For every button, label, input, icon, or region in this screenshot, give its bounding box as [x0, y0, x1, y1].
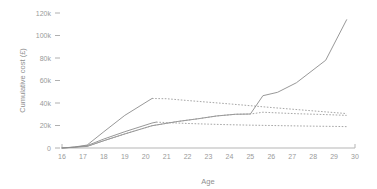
- y-tick-label: 0: [47, 145, 51, 152]
- x-axis-title: Age: [201, 177, 214, 186]
- series-central-estimate-projected: [156, 122, 346, 127]
- x-tick-label: 20: [142, 153, 150, 160]
- y-tick-label: 120k: [36, 10, 52, 17]
- x-tick-label: 18: [100, 153, 108, 160]
- x-tick-label: 21: [163, 153, 171, 160]
- x-tick-label: 29: [330, 153, 338, 160]
- x-tick-label: 28: [309, 153, 317, 160]
- series-upper-estimate-observed: [62, 99, 152, 149]
- x-tick-label: 25: [246, 153, 254, 160]
- x-axis-ticks: 161718192021222324252627282930: [58, 153, 359, 160]
- x-tick-label: 26: [267, 153, 275, 160]
- x-tick-label: 19: [121, 153, 129, 160]
- y-axis-ticks: 020k40k60k80k100k120k: [36, 10, 60, 152]
- series-lower-band-projected: [87, 112, 347, 146]
- y-tick-label: 100k: [36, 32, 52, 39]
- series-cumulative-cost-main: [62, 20, 347, 148]
- y-tick-label: 40k: [40, 100, 52, 107]
- x-tick-label: 27: [288, 153, 296, 160]
- x-tick-label: 30: [351, 153, 359, 160]
- x-tick-label: 24: [226, 153, 234, 160]
- x-axis-line: [62, 144, 355, 148]
- x-tick-label: 17: [79, 153, 87, 160]
- x-axis: [62, 144, 355, 148]
- y-tick-label: 80k: [40, 55, 52, 62]
- y-tick-label: 20k: [40, 122, 52, 129]
- y-tick-label: 60k: [40, 77, 52, 84]
- chart-canvas: 020k40k60k80k100k120k 161718192021222324…: [0, 0, 377, 189]
- chart-series-group: [62, 20, 347, 148]
- cumulative-cost-line-chart: 020k40k60k80k100k120k 161718192021222324…: [0, 0, 377, 189]
- x-tick-label: 16: [58, 153, 66, 160]
- series-central-estimate-observed: [62, 122, 156, 148]
- x-tick-label: 22: [184, 153, 192, 160]
- series-upper-estimate-projected: [152, 99, 347, 114]
- x-tick-label: 23: [205, 153, 213, 160]
- y-axis-title: Cumulative cost (£): [18, 48, 27, 113]
